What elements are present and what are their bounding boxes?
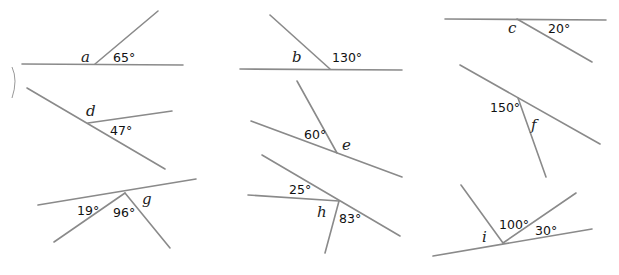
known-angle: 83° xyxy=(339,211,361,226)
known-angle: 60° xyxy=(304,127,326,142)
angle-variable-b: b xyxy=(292,48,302,66)
angle-variable-i: i xyxy=(482,228,487,246)
known-angle: 96° xyxy=(113,205,135,220)
known-angle: 100° xyxy=(499,217,529,232)
straight-line xyxy=(262,155,400,236)
known-angle: 47° xyxy=(110,123,132,138)
angles-worksheet: a 65° b 130° c 20° d 47° 60° e 150° f xyxy=(0,0,619,275)
known-angle: 65° xyxy=(113,50,135,65)
angle-variable-c: c xyxy=(508,19,517,37)
straight-line xyxy=(433,229,592,256)
ray xyxy=(325,201,339,253)
known-angle: 130° xyxy=(332,50,362,65)
angle-variable-f: f xyxy=(530,116,539,134)
angle-variable-a: a xyxy=(81,48,90,66)
ray xyxy=(297,81,337,153)
angle-variable-g: g xyxy=(142,190,152,208)
diagram-i: i 100° 30° xyxy=(433,185,592,256)
diagram-d: d 47° xyxy=(27,88,172,169)
known-angle: 19° xyxy=(77,203,99,218)
diagram-b: b 130° xyxy=(240,15,402,70)
straight-line xyxy=(251,121,402,177)
angle-variable-d: d xyxy=(86,102,96,120)
known-angle: 30° xyxy=(535,223,557,238)
straight-line xyxy=(38,179,196,205)
known-angle: 20° xyxy=(548,21,570,36)
ray xyxy=(88,111,172,123)
diagram-h: 25° h 83° xyxy=(248,155,400,253)
diagram-f: 150° f xyxy=(460,65,600,177)
diagram-g: 19° 96° g xyxy=(38,179,196,248)
diagram-a: a 65° xyxy=(22,11,183,66)
angle-variable-e: e xyxy=(342,136,351,154)
diagram-c: c 20° xyxy=(445,19,606,62)
known-angle: 25° xyxy=(289,182,311,197)
known-angle: 150° xyxy=(490,100,520,115)
straight-line xyxy=(240,69,402,70)
straight-line xyxy=(27,88,165,169)
angle-variable-h: h xyxy=(317,203,327,221)
margin-mark xyxy=(12,67,15,98)
ray xyxy=(518,98,546,177)
straight-line xyxy=(22,64,183,65)
straight-line xyxy=(445,19,606,20)
